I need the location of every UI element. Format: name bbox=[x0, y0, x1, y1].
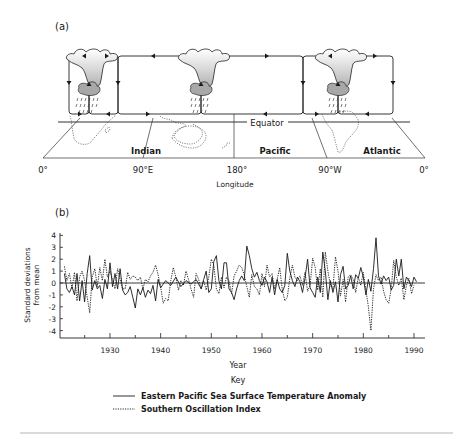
arrow-left-icon bbox=[263, 112, 267, 117]
madagascar-outline bbox=[105, 127, 110, 133]
ocean-label-pacific: Pacific bbox=[259, 146, 290, 156]
cell-pacific bbox=[201, 56, 303, 114]
rain-streaks bbox=[76, 98, 346, 113]
arrow-down-icon bbox=[116, 81, 121, 85]
longitude-tick-90w: 90°W bbox=[318, 165, 342, 175]
arrow-down-icon bbox=[391, 81, 396, 85]
meridian-0-left bbox=[43, 118, 80, 158]
ocean-label-atlantic: Atlantic bbox=[363, 146, 400, 156]
x-tick-label: 1960 bbox=[252, 346, 271, 355]
arrow-right-icon bbox=[146, 112, 150, 117]
australia-outline bbox=[172, 126, 206, 148]
longitude-tick-180: 180° bbox=[227, 165, 247, 175]
convection-clouds bbox=[66, 49, 366, 96]
y-tick-label: 1 bbox=[51, 267, 56, 276]
arrow-right-icon bbox=[265, 54, 269, 59]
longitude-axis-title: Longitude bbox=[216, 180, 254, 189]
arrow-left-icon bbox=[365, 112, 369, 117]
africa-outline bbox=[70, 115, 116, 144]
south-america-outline bbox=[322, 111, 359, 152]
y-tick-label: 0 bbox=[51, 279, 56, 288]
continent-outlines bbox=[70, 111, 359, 152]
arrow-down-icon bbox=[67, 81, 72, 85]
chart-series bbox=[64, 238, 416, 331]
new-zealand-outline bbox=[222, 143, 230, 148]
cloud-south-america bbox=[315, 49, 366, 96]
equator-label: Equator bbox=[250, 118, 284, 128]
x-tick-label: 1980 bbox=[354, 346, 373, 355]
legend-label-soi: Southern Oscillation Index bbox=[141, 405, 262, 414]
panel-b-chart: (b) Standard deviations from mean 43210-… bbox=[23, 207, 425, 414]
y-tick-label: -1 bbox=[49, 291, 57, 300]
y-axis-title: Standard deviations from mean bbox=[23, 247, 41, 322]
meridian-90w bbox=[312, 118, 327, 158]
arrow-right-icon bbox=[373, 54, 377, 59]
cloud-africa bbox=[66, 49, 117, 96]
arrow-right-icon bbox=[78, 112, 82, 117]
x-tick-label: 1970 bbox=[303, 346, 322, 355]
x-tick-label: 1940 bbox=[151, 346, 170, 355]
arrow-left-icon bbox=[106, 112, 110, 117]
y-tick-label: 2 bbox=[51, 255, 56, 264]
x-tick-label: 1930 bbox=[100, 346, 119, 355]
arrow-right-icon bbox=[315, 112, 319, 117]
series-southern-oscillation-index bbox=[64, 252, 414, 331]
longitude-tick-0-left: 0° bbox=[38, 165, 48, 175]
y-tick-label: 4 bbox=[51, 231, 56, 240]
legend: Key Eastern Pacific Sea Surface Temperat… bbox=[113, 376, 367, 414]
figure: (a) Equator bbox=[0, 0, 453, 435]
x-tick-label: 1950 bbox=[202, 346, 221, 355]
longitude-tick-0-right: 0° bbox=[419, 165, 429, 175]
x-axis-title: Year bbox=[229, 361, 248, 370]
y-tick-label: -4 bbox=[49, 327, 57, 336]
ocean-label-indian: Indian bbox=[131, 146, 161, 156]
y-tick-label: 3 bbox=[51, 243, 56, 252]
y-tick-label: -2 bbox=[49, 303, 57, 312]
cloud-maritime-continent bbox=[178, 49, 229, 96]
chart-axes: 43210-1-2-3-4193019401950196019701980199… bbox=[49, 231, 425, 355]
legend-title: Key bbox=[231, 376, 246, 385]
panel-b-label: (b) bbox=[55, 207, 69, 218]
y-axis-title-line2: from mean bbox=[32, 264, 41, 305]
arrow-down-icon bbox=[301, 81, 306, 85]
maritime-continent-outline bbox=[160, 116, 202, 144]
panel-a-label: (a) bbox=[55, 21, 69, 32]
legend-label-sst: Eastern Pacific Sea Surface Temperature … bbox=[141, 392, 367, 401]
x-tick-label: 1990 bbox=[404, 346, 423, 355]
panel-a-diagram: (a) Equator bbox=[38, 21, 429, 189]
y-tick-label: -3 bbox=[49, 315, 57, 324]
arrow-left-icon bbox=[151, 54, 155, 59]
longitude-tick-90e: 90°E bbox=[133, 165, 153, 175]
y-axis-title-line1: Standard deviations bbox=[23, 247, 32, 322]
